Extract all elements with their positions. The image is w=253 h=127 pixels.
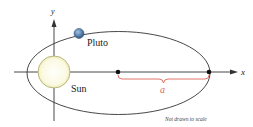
ellipse-center-point (116, 70, 121, 75)
semi-major-axis-brace (118, 75, 209, 83)
y-axis-arrow-icon (52, 19, 57, 27)
orbit-diagram: x y Sun Pluto a Not drawn to scale (0, 0, 253, 127)
scale-note: Not drawn to scale (164, 116, 207, 122)
x-axis-arrow-icon (230, 70, 238, 75)
x-axis-label: x (240, 67, 245, 77)
ellipse-vertex-point (207, 70, 212, 75)
pluto-icon (74, 29, 84, 39)
sun-label: Sun (71, 83, 87, 94)
sun-icon (38, 56, 70, 88)
semi-major-axis-label: a (160, 84, 165, 95)
pluto-label: Pluto (87, 37, 108, 48)
y-axis-label: y (50, 7, 55, 16)
